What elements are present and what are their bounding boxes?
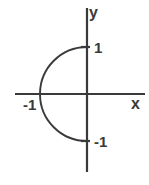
tick-label-y-positive-one: 1 — [94, 40, 102, 55]
tick-label-x-negative-one: -1 — [23, 97, 36, 112]
plot-canvas — [0, 0, 149, 185]
coordinate-plane-figure: y x 1 -1 -1 — [0, 0, 149, 185]
y-axis-label: y — [89, 5, 98, 21]
x-axis-label: x — [131, 96, 140, 112]
tick-label-y-negative-one: -1 — [94, 134, 107, 149]
